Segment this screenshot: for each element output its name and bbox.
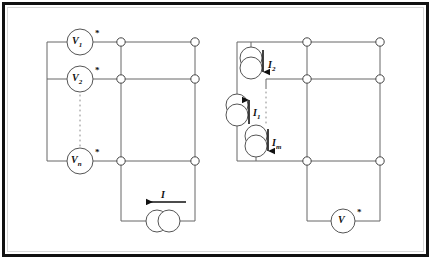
source-i1 (226, 94, 248, 126)
right-current-sources (226, 47, 267, 157)
source-im (245, 125, 267, 157)
left-circuit-wires (47, 42, 195, 221)
node (303, 38, 311, 46)
label-voltmeter: V (338, 215, 345, 225)
node (117, 75, 125, 83)
figure-canvas: V1 * V2 * Vn * I I2 I1 Im V * (0, 0, 433, 261)
label-i: I (161, 190, 165, 200)
left-nodes (117, 38, 199, 165)
marker-v1: * (95, 28, 100, 38)
right-nodes (303, 38, 384, 165)
node (117, 157, 125, 165)
label-v2: V2 (72, 73, 82, 86)
node (303, 75, 311, 83)
source-i (146, 210, 180, 232)
label-vn: Vn (71, 155, 82, 168)
node (376, 38, 384, 46)
label-i1: I1 (253, 108, 260, 121)
marker-v2: * (95, 65, 100, 75)
node (117, 38, 125, 46)
node (303, 157, 311, 165)
label-i2: I2 (268, 60, 275, 73)
circuit-diagram (0, 0, 433, 261)
node (376, 75, 384, 83)
node (191, 157, 199, 165)
label-im: Im (272, 138, 281, 151)
node (191, 38, 199, 46)
label-v1: V1 (72, 36, 82, 49)
marker-voltmeter: * (357, 207, 362, 217)
node (376, 157, 384, 165)
marker-vn: * (95, 147, 100, 157)
node (191, 75, 199, 83)
source-i2 (240, 47, 262, 79)
